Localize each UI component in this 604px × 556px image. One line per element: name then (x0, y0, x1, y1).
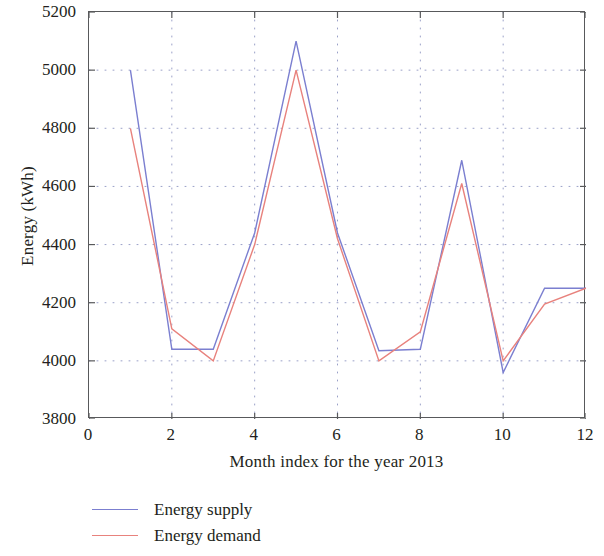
y-tick-label: 4000 (0, 351, 76, 368)
legend-label-energy-supply: Energy supply (154, 501, 252, 518)
legend: Energy supply Energy demand (92, 496, 432, 548)
gridlines (89, 12, 586, 419)
x-tick-label: 2 (151, 426, 191, 443)
x-axis-title: Month index for the year 2013 (88, 452, 585, 472)
x-tick-label: 0 (68, 426, 108, 443)
legend-swatch-energy-demand (92, 535, 138, 536)
plot-area (88, 11, 585, 418)
y-tick-label: 5200 (0, 3, 76, 20)
chart-canvas (89, 12, 586, 419)
legend-item: Energy demand (92, 522, 432, 548)
y-tick-label: 5000 (0, 61, 76, 78)
x-tick-label: 8 (399, 426, 439, 443)
y-tick-label: 4200 (0, 293, 76, 310)
series-energy-supply (130, 41, 586, 372)
x-tick-label: 10 (482, 426, 522, 443)
y-axis-title: Energy (kWh) (18, 126, 38, 306)
legend-item: Energy supply (92, 496, 432, 522)
y-tick-label: 4600 (0, 177, 76, 194)
x-tick-label: 12 (565, 426, 604, 443)
data-series-lines (130, 41, 586, 372)
y-tick-label: 4800 (0, 119, 76, 136)
legend-swatch-energy-supply (92, 509, 138, 510)
y-tick-label: 3800 (0, 410, 76, 427)
x-tick-label: 6 (317, 426, 357, 443)
energy-supply-demand-chart: Energy (kWh) 380040004200440046004800500… (0, 0, 604, 556)
x-tick-label: 4 (234, 426, 274, 443)
series-energy-demand (130, 70, 586, 361)
y-tick-label: 4400 (0, 235, 76, 252)
legend-label-energy-demand: Energy demand (154, 527, 261, 544)
